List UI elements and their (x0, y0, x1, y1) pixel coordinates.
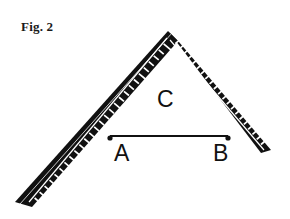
point-A-dot (107, 135, 112, 140)
figure-caption: Fig. 2 (21, 19, 53, 35)
vertex-label-a: A (114, 142, 129, 165)
vertex-label-b: B (213, 142, 228, 165)
vertex-label-c: C (157, 88, 174, 111)
